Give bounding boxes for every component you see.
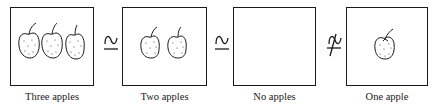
label-one-apple: One apple [346, 91, 428, 102]
panel-three-apples [10, 7, 94, 86]
three-apples-icon [11, 8, 95, 87]
panel-no-apples [233, 7, 316, 86]
not-subset-symbol [324, 30, 344, 58]
label-two-apples: Two apples [122, 91, 207, 102]
panel-one-apple [346, 7, 428, 86]
one-apple-icon [347, 8, 429, 87]
label-three-apples: Three apples [10, 91, 94, 102]
two-apples-icon [123, 8, 208, 87]
subset-symbol-1 [101, 30, 121, 58]
panel-two-apples [122, 7, 207, 86]
label-no-apples: No apples [233, 91, 316, 102]
subset-symbol-2 [212, 30, 232, 58]
